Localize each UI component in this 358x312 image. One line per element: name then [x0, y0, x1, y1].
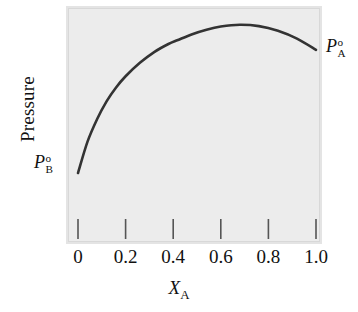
x-axis-tick-label-4: 0.8	[248, 246, 288, 268]
x-axis-tick-label-3: 0.6	[201, 246, 241, 268]
p-b-subscript: B	[46, 164, 53, 175]
x-axis-tick-label-2: 0.4	[153, 246, 193, 268]
plot-area	[68, 8, 320, 242]
vapour-pressure-chart: Pressure 00.20.40.60.81.0 XA PoB PoA	[0, 0, 358, 312]
p-b-standard-annotation: PoB	[34, 152, 53, 175]
p-a-standard-annotation: PoA	[326, 36, 346, 59]
x-axis-tick-label-1: 0.2	[106, 246, 146, 268]
p-a-subscript: A	[338, 48, 346, 59]
x-axis-tick-label-0: 0	[58, 246, 98, 268]
p-b-base-symbol: P	[34, 152, 45, 172]
p-a-base-symbol: P	[326, 36, 337, 56]
x-axis-title-subscript: A	[180, 287, 189, 302]
x-axis-tick-label-5: 1.0	[296, 246, 336, 268]
x-axis-title-variable: X	[169, 277, 181, 298]
p-a-script-stack: oA	[338, 37, 346, 60]
x-axis-title: XA	[0, 277, 358, 303]
p-b-script-stack: oB	[46, 153, 53, 176]
